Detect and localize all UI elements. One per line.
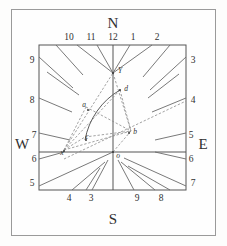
hour-label-top-2: 2 — [155, 32, 160, 42]
hour-line-3-lower — [92, 160, 108, 190]
hour-label-top-12: 12 — [108, 32, 118, 42]
hour-label-left-7: 7 — [32, 130, 37, 140]
point-label-a: a — [82, 100, 86, 109]
construction-d-to-b — [120, 90, 131, 131]
hour-line-aux-left-a — [56, 45, 83, 75]
hour-lines-right-upper — [143, 45, 186, 159]
sundial-diagram: N S W E 10 11 12 1 2 9 8 7 6 5 3 4 5 6 7… — [0, 0, 227, 246]
construction-Y-to-b — [113, 73, 131, 131]
point-marker-d — [119, 89, 121, 91]
hour-label-top-10: 10 — [64, 32, 74, 42]
point-label-x: x — [59, 148, 64, 157]
construction-arc — [85, 90, 120, 140]
hour-line-11 — [97, 45, 113, 73]
hour-line-aux-left-b — [47, 72, 79, 95]
hour-line-4-right — [152, 98, 186, 112]
point-label-d: d — [124, 84, 128, 93]
cardinal-west: W — [15, 136, 30, 152]
hour-label-bottom-8: 8 — [159, 193, 164, 203]
hour-label-top-11: 11 — [86, 32, 95, 42]
cardinal-east: E — [198, 136, 207, 152]
hour-label-left-6: 6 — [32, 154, 37, 164]
construction-c-to-b — [85, 131, 131, 137]
hour-line-6-right — [155, 152, 186, 159]
point-marker-b — [128, 132, 130, 134]
cardinal-south: S — [109, 211, 117, 227]
hour-label-left-9: 9 — [30, 55, 35, 65]
hour-line-aux-right-a — [143, 45, 170, 77]
point-label-Y: Y — [118, 66, 123, 75]
hour-line-7-left — [39, 133, 70, 140]
hour-label-bottom-4: 4 — [67, 193, 72, 203]
hour-line-5-right — [155, 133, 186, 140]
point-marker-o — [112, 151, 114, 153]
hour-label-right-7: 7 — [191, 178, 196, 188]
hour-label-left-5: 5 — [30, 178, 35, 188]
hour-label-bottom-9: 9 — [135, 193, 140, 203]
hour-line-9-left — [39, 57, 73, 88]
cardinal-north: N — [108, 15, 119, 31]
point-marker-a — [87, 109, 89, 111]
hour-label-right-3: 3 — [191, 55, 196, 65]
hour-line-5-lower-left — [39, 152, 113, 186]
construction-b-to-o — [113, 131, 131, 152]
hour-line-9-lower — [118, 160, 134, 190]
hour-label-bottom-3: 3 — [89, 193, 94, 203]
hour-line-8-left — [39, 98, 72, 112]
point-label-o: o — [116, 151, 120, 160]
hour-label-top-1: 1 — [131, 32, 136, 42]
hour-label-right-5: 5 — [189, 130, 194, 140]
hour-line-10 — [77, 45, 113, 73]
hour-lines-upper — [77, 45, 152, 73]
point-label-c: c — [85, 132, 89, 141]
hour-label-right-4: 4 — [191, 95, 196, 105]
diagram-page: N S W E 10 11 12 1 2 9 8 7 6 5 3 4 5 6 7… — [0, 0, 227, 246]
hour-label-right-6: 6 — [189, 154, 194, 164]
hour-label-left-8: 8 — [30, 95, 35, 105]
point-label-b: b — [133, 127, 137, 136]
point-marker-Y — [112, 72, 114, 74]
